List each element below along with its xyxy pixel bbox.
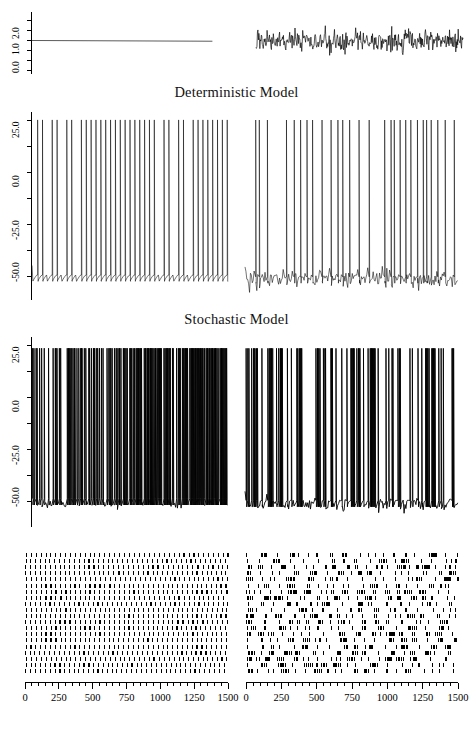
raster-deterministic-plot [0,545,236,695]
ytick-voltage2-m25: -25.0 [11,427,21,465]
xtick-label-right-1000: 1000 [367,692,407,703]
panel-voltage-deterministic-noisy [236,104,473,304]
xtick-label-right-0: 0 [226,692,266,703]
ytick-voltage-0: 0.0 [11,159,21,187]
input-deterministic-plot [0,0,236,80]
panel-voltage-deterministic-regular: 25.0 0.0 -25.0 -50.0 [0,104,236,304]
ytick-input-1: 1.0 [11,35,21,55]
voltage-deterministic-noisy-plot [236,104,473,304]
raster-stochastic-plot [236,545,473,695]
xtick-label-right-1500: 1500 [438,692,473,703]
panel-raster-stochastic [236,545,473,695]
ytick-voltage2-m50: -50.0 [11,469,21,507]
panel-voltage-stochastic-noisy [236,331,473,531]
voltage-deterministic-regular-plot [0,104,236,304]
ytick-voltage-m25: -25.0 [11,202,21,240]
voltage-stochastic-noisy-plot [236,331,473,531]
voltage-stochastic-regular-plot [0,331,236,531]
ytick-voltage2-25: 25.0 [11,329,21,363]
ytick-input-0: 0.0 [11,53,21,73]
panel-raster-deterministic [0,545,236,695]
ytick-voltage-m50: -50.0 [11,244,21,282]
panel-input-deterministic: 2.0 1.0 0.0 [0,0,236,80]
xtick-label-right-1250: 1250 [403,692,443,703]
title-deterministic-model: Deterministic Model [0,84,473,101]
title-stochastic-model: Stochastic Model [0,311,473,328]
panel-input-stochastic [236,0,473,80]
panel-voltage-stochastic-regular: 25.0 0.0 -25.0 -50.0 [0,331,236,531]
xtick-label-right-500: 500 [297,692,337,703]
ytick-voltage-25: 25.0 [11,104,21,138]
figure-root: 2.0 1.0 0.0 Deterministic Model 25.0 0.0… [0,0,473,737]
ytick-voltage2-0: 0.0 [11,384,21,412]
input-stochastic-plot [236,0,473,80]
xtick-label-right-250: 250 [261,692,301,703]
xtick-label-right-750: 750 [332,692,372,703]
